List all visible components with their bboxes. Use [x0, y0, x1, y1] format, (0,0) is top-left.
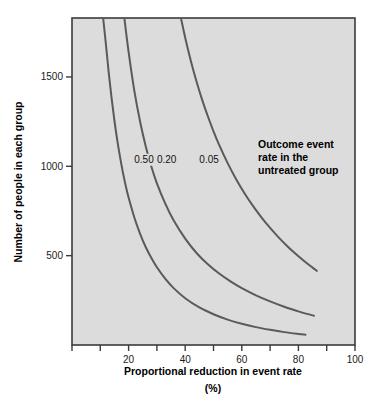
- y-tick-label: 500: [46, 250, 63, 261]
- y-tick-label: 1500: [41, 71, 64, 82]
- x-axis-title: Proportional reduction in event rate: [124, 365, 302, 377]
- curve-labels: 0.500.200.05: [133, 154, 221, 166]
- y-tick-label: 1000: [41, 161, 64, 172]
- x-tick-label: 100: [347, 354, 364, 365]
- chart-canvas: 50010001500 20406080100 0.500.200.05 Pro…: [0, 0, 375, 402]
- annotation-line-3: untreated group: [258, 164, 339, 176]
- y-axis-title: Number of people in each group: [12, 101, 24, 262]
- annotation-line-1: Outcome event: [258, 138, 334, 150]
- x-tick-label: 20: [123, 354, 135, 365]
- x-axis-units-label: (%): [205, 382, 221, 394]
- x-tick-label: 80: [293, 354, 305, 365]
- annotation-line-2: rate in the: [258, 151, 308, 163]
- curve-label-0.20: 0.20: [157, 154, 177, 165]
- curve-label-0.50: 0.50: [134, 154, 154, 165]
- chart-figure: 50010001500 20406080100 0.500.200.05 Pro…: [0, 0, 375, 402]
- x-tick-label: 60: [236, 354, 248, 365]
- x-tick-label: 40: [180, 354, 192, 365]
- plot-area-background: [72, 18, 355, 345]
- curve-label-0.05: 0.05: [199, 154, 219, 165]
